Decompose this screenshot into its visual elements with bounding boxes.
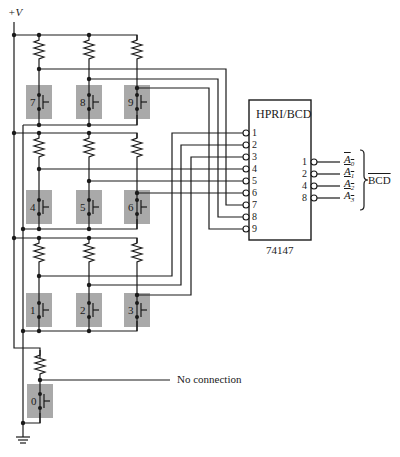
ic-input-8: 8: [252, 212, 257, 222]
switch-contacts: [43, 95, 147, 408]
supply-label: +V: [8, 7, 22, 18]
switch-label-4: 4: [30, 202, 36, 213]
ic-input-2: 2: [252, 140, 257, 150]
switch-label-7: 7: [30, 97, 36, 108]
ic-input-4: 4: [252, 164, 257, 174]
ic-input-7: 7: [252, 200, 257, 210]
bcd-group-label: BCD: [368, 175, 391, 186]
switch-label-0: 0: [31, 396, 37, 407]
ic-title: HPRI/BCD: [256, 108, 311, 120]
switch-label-8: 8: [80, 97, 86, 108]
ic-part-number: 74147: [266, 245, 294, 256]
switch-label-3: 3: [128, 305, 134, 316]
ic-input-5: 5: [252, 176, 257, 186]
ic-output-weight-4: 4: [302, 181, 307, 191]
no-connection-label: No connection: [177, 374, 241, 385]
ic-output-weight-8: 8: [302, 193, 307, 203]
output-signal-a3: A3: [344, 190, 354, 204]
ic-output-weight-2: 2: [302, 169, 307, 179]
ic-input-3: 3: [252, 152, 257, 162]
switch-label-6: 6: [128, 202, 134, 213]
switch-label-2: 2: [80, 305, 86, 316]
ic-input-1: 1: [252, 128, 257, 138]
ic-input-6: 6: [252, 188, 257, 198]
ic-output-weight-1: 1: [302, 157, 307, 167]
switch-label-5: 5: [80, 202, 86, 213]
ic-input-9: 9: [252, 224, 257, 234]
circuit-diagram: +V 7 8 9 4 5 6 1 2 3 0 HPRI/BCD 74147 1 …: [0, 0, 400, 457]
switch-label-1: 1: [30, 305, 36, 316]
switch-label-9: 9: [128, 97, 134, 108]
